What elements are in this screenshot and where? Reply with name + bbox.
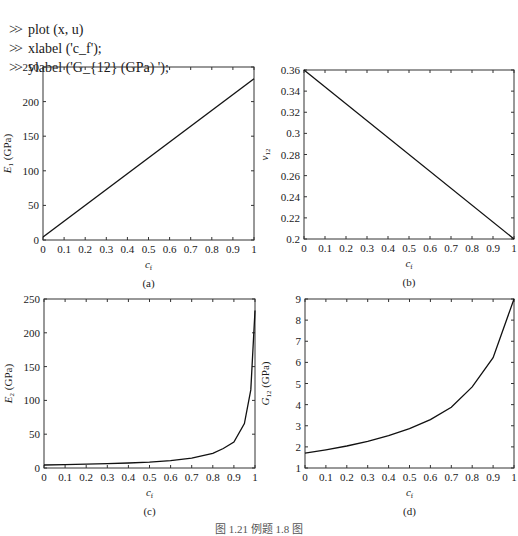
x-tick-label: 0.5 xyxy=(142,243,156,255)
x-tick-label: 0.3 xyxy=(99,243,113,255)
x-tick-label: 1 xyxy=(511,471,517,483)
data-line xyxy=(304,70,514,239)
x-tick-label: 0.9 xyxy=(227,471,241,483)
y-tick-label: 0.32 xyxy=(281,106,300,118)
y-tick-label: 50 xyxy=(29,428,41,440)
data-line xyxy=(44,311,255,466)
y-tick-label: 0 xyxy=(35,462,41,474)
plot-frame xyxy=(44,299,255,468)
x-tick-label: 0.6 xyxy=(163,243,177,255)
x-tick-label: 0 xyxy=(40,243,46,255)
x-tick-label: 0.1 xyxy=(57,243,71,255)
figure-caption: 图 1.21 例题 1.8 图 xyxy=(0,520,518,536)
x-tick-label: 0.2 xyxy=(78,243,92,255)
x-tick-label: 0.6 xyxy=(423,242,437,254)
x-tick-label: 0 xyxy=(41,471,47,483)
chart-panel-c: 00.10.20.30.40.50.60.70.80.9105010015020… xyxy=(2,293,258,518)
x-tick-label: 0.4 xyxy=(382,471,396,483)
y-tick-label: 250 xyxy=(24,293,41,305)
x-tick-label: 0.2 xyxy=(339,242,353,254)
x-tick-label: 0.4 xyxy=(122,471,136,483)
x-tick-label: 1 xyxy=(251,243,257,255)
x-tick-label: 0.4 xyxy=(121,243,135,255)
x-tick-label: 0.9 xyxy=(486,471,500,483)
y-tick-label: 5 xyxy=(296,378,302,390)
y-tick-label: 50 xyxy=(28,199,40,211)
y-tick-label: 0.22 xyxy=(281,212,300,224)
x-tick-label: 0.9 xyxy=(486,242,500,254)
chart-panel-b: 00.10.20.30.40.50.60.70.80.910.20.220.24… xyxy=(258,64,517,289)
x-axis-label: cf xyxy=(145,258,153,272)
y-tick-label: 250 xyxy=(23,61,40,73)
y-tick-label: 200 xyxy=(24,327,41,339)
x-tick-label: 0.7 xyxy=(444,471,458,483)
y-tick-label: 8 xyxy=(296,314,302,326)
x-tick-label: 0.9 xyxy=(226,243,240,255)
y-tick-label: 7 xyxy=(296,335,302,347)
x-tick-label: 0.5 xyxy=(143,471,157,483)
y-tick-label: 1 xyxy=(296,462,302,474)
x-axis-label: cf xyxy=(406,486,414,500)
y-tick-label: 0.34 xyxy=(281,85,301,97)
x-tick-label: 0 xyxy=(301,242,307,254)
data-line xyxy=(305,299,514,453)
y-tick-label: 3 xyxy=(296,420,302,432)
chart-panel-d: 00.10.20.30.40.50.60.70.80.91123456789cf… xyxy=(259,293,517,518)
chart-panel-a: 00.10.20.30.40.50.60.70.80.9105010015020… xyxy=(1,61,257,290)
y-tick-label: 0.3 xyxy=(286,127,300,139)
x-tick-label: 0.1 xyxy=(318,242,332,254)
x-tick-label: 0.3 xyxy=(100,471,114,483)
x-tick-label: 0.8 xyxy=(465,242,479,254)
x-tick-label: 0.4 xyxy=(381,242,395,254)
y-tick-label: 100 xyxy=(24,394,41,406)
y-tick-label: 0.24 xyxy=(281,191,301,203)
y-tick-label: 4 xyxy=(296,399,302,411)
y-axis-label: ν12 xyxy=(258,148,272,160)
x-tick-label: 0.1 xyxy=(319,471,333,483)
x-tick-label: 0 xyxy=(302,471,308,483)
y-tick-label: 150 xyxy=(24,361,41,373)
x-tick-label: 0.6 xyxy=(424,471,438,483)
x-tick-label: 1 xyxy=(252,471,258,483)
x-tick-label: 0.7 xyxy=(184,243,198,255)
plot-frame xyxy=(305,299,514,468)
y-tick-label: 100 xyxy=(23,165,40,177)
x-tick-label: 0.3 xyxy=(361,471,375,483)
x-tick-label: 0.7 xyxy=(185,471,199,483)
y-axis-label: G12 (GPa) xyxy=(259,361,273,405)
x-tick-label: 0.8 xyxy=(206,471,220,483)
y-tick-label: 2 xyxy=(296,441,302,453)
y-axis-label: E2 (GPa) xyxy=(2,364,16,405)
y-tick-label: 0.26 xyxy=(281,170,301,182)
x-axis-label: cf xyxy=(405,257,413,271)
y-tick-label: 6 xyxy=(296,356,302,368)
x-tick-label: 0.2 xyxy=(340,471,354,483)
y-tick-label: 0.2 xyxy=(286,233,300,245)
x-tick-label: 0.6 xyxy=(164,471,178,483)
y-tick-label: 200 xyxy=(23,96,40,108)
data-line xyxy=(43,79,254,237)
y-tick-label: 0.36 xyxy=(281,64,301,76)
y-tick-label: 150 xyxy=(23,130,40,142)
x-tick-label: 0.8 xyxy=(205,243,219,255)
x-tick-label: 0.2 xyxy=(79,471,93,483)
y-axis-label: E1 (GPa) xyxy=(1,134,15,175)
x-tick-label: 0.5 xyxy=(403,471,417,483)
x-tick-label: 0.8 xyxy=(465,471,479,483)
x-tick-label: 0.1 xyxy=(58,471,72,483)
panel-label: (c) xyxy=(143,505,156,518)
y-tick-label: 0.28 xyxy=(281,149,301,161)
x-tick-label: 0.7 xyxy=(444,242,458,254)
x-tick-label: 0.3 xyxy=(360,242,374,254)
panel-label: (b) xyxy=(403,276,416,289)
x-tick-label: 1 xyxy=(511,242,517,254)
panel-label: (d) xyxy=(403,505,416,518)
x-tick-label: 0.5 xyxy=(402,242,416,254)
y-tick-label: 0 xyxy=(34,234,40,246)
x-axis-label: cf xyxy=(146,486,154,500)
panel-label: (a) xyxy=(142,277,155,290)
y-tick-label: 9 xyxy=(296,293,302,305)
plot-frame xyxy=(43,67,254,240)
